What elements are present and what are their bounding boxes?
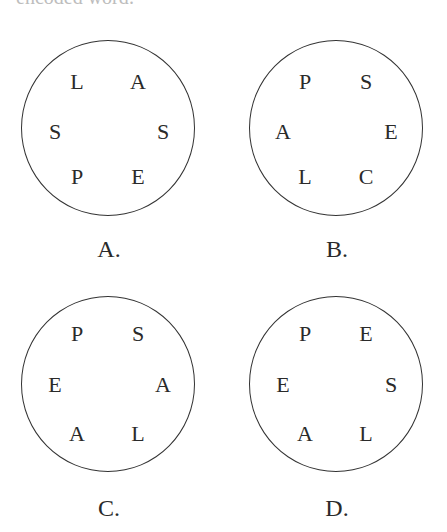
letter-top-right: S <box>126 323 150 345</box>
clipped-question-text: encoded word: <box>16 0 134 9</box>
letter-mid-right: A <box>151 374 175 396</box>
letter-bottom-right: L <box>354 423 378 445</box>
letter-top-left: P <box>65 323 89 345</box>
letter-bottom-right: L <box>126 423 150 445</box>
option-b[interactable]: P S A E L C B. <box>249 40 429 280</box>
letter-top-right: A <box>126 71 150 93</box>
option-c[interactable]: P S E A A L C. <box>21 296 201 532</box>
letter-mid-left: E <box>43 374 67 396</box>
letter-bottom-right: E <box>126 166 150 188</box>
letter-bottom-left: L <box>293 166 317 188</box>
letter-mid-right: S <box>151 121 175 143</box>
letter-top-right: S <box>354 71 378 93</box>
option-label: D. <box>325 496 348 520</box>
option-d[interactable]: P E E S A L D. <box>249 296 429 532</box>
option-label: A. <box>97 237 120 261</box>
letter-bottom-left: A <box>65 423 89 445</box>
letter-top-left: L <box>65 71 89 93</box>
option-a[interactable]: L A S S P E A. <box>21 40 201 280</box>
letter-bottom-left: A <box>293 423 317 445</box>
letter-mid-right: E <box>379 121 403 143</box>
letter-bottom-left: P <box>65 166 89 188</box>
letter-bottom-right: C <box>354 166 378 188</box>
letter-mid-left: S <box>43 121 67 143</box>
option-label: C. <box>98 496 120 520</box>
letter-top-right: E <box>354 323 378 345</box>
letter-mid-left: A <box>271 121 295 143</box>
letter-top-left: P <box>293 323 317 345</box>
option-label: B. <box>326 237 348 261</box>
letter-mid-right: S <box>379 374 403 396</box>
letter-top-left: P <box>293 71 317 93</box>
letter-mid-left: E <box>271 374 295 396</box>
